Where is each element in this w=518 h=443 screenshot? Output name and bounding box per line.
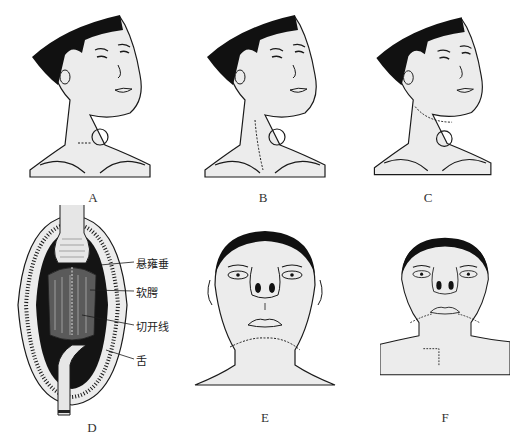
panel-label-d: D [82,420,102,436]
panel-e: E [190,225,340,390]
panel-label-b: B [253,190,273,206]
panel-f: F [380,225,510,390]
head-tilted-illustration [10,5,180,185]
panel-label-a: A [83,190,103,206]
panel-label-e: E [255,410,275,426]
panel-d: 悬雍垂 软腭 切开线 舌 D [10,205,135,420]
callout-leader-lines [10,205,145,420]
panel-a: A [10,5,180,185]
head-tilted-illustration [185,5,355,185]
head-tilted-illustration [355,5,518,185]
frontal-face-illustration [190,225,340,390]
panel-c: C [355,5,518,185]
panel-b: B [185,5,355,185]
frontal-face-illustration [380,225,510,390]
panel-label-f: F [435,410,455,426]
panel-label-c: C [418,190,438,206]
